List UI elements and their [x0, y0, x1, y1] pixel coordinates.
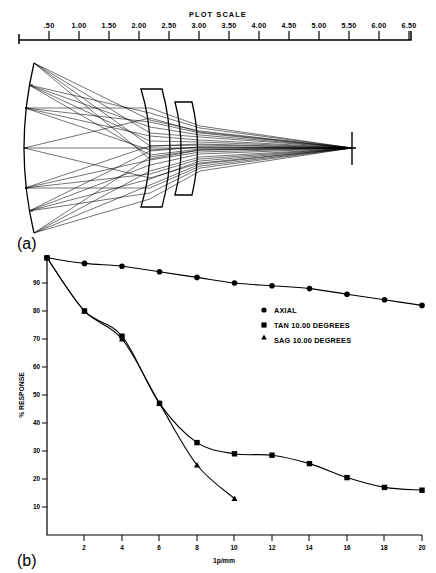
x-tick-label: 6 — [157, 544, 161, 551]
data-point-circle-icon — [344, 291, 350, 297]
data-point-circle-icon — [157, 269, 163, 275]
legend-marker-circle-icon — [261, 307, 266, 312]
scale-tick-label: .50 — [44, 21, 55, 30]
scale-tick-label: 1.00 — [71, 21, 86, 30]
legend-marker-square-icon — [261, 322, 266, 327]
image-plane — [345, 132, 356, 165]
data-point-square-icon — [194, 440, 199, 445]
y-tick-label: 60 — [33, 363, 41, 370]
scale-tick-label: 4.00 — [251, 21, 266, 30]
data-point-square-icon — [344, 475, 349, 480]
ruler-baseline — [19, 31, 411, 44]
y-tick-label: 10 — [33, 503, 41, 510]
x-tick-label: 14 — [305, 544, 313, 551]
x-tick-label: 4 — [120, 544, 124, 551]
data-point-circle-icon — [232, 280, 238, 286]
x-tick-label: 12 — [268, 544, 276, 551]
y-axis-ticks — [42, 283, 47, 507]
y-axis-tick-labels: 90 80 70 60 50 40 30 20 10 — [33, 279, 41, 510]
data-point-circle-icon — [82, 261, 88, 267]
mtf-chart: 90 80 70 60 50 40 30 20 10 % RESPONSE — [17, 255, 426, 569]
ruler-ticks — [49, 31, 409, 40]
data-point-circle-icon — [269, 283, 275, 289]
series-tan-10-00-degrees — [44, 255, 424, 493]
x-tick-label: 2 — [82, 544, 86, 551]
x-tick-label: 18 — [380, 544, 388, 551]
y-tick-label: 20 — [33, 475, 41, 482]
optical-figure: PLOT SCALE .50 — [0, 0, 436, 573]
y-tick-label: 50 — [33, 391, 41, 398]
x-tick-label: 10 — [230, 544, 238, 551]
scale-tick-label: 1.50 — [101, 21, 116, 30]
series-sag-10-00-degrees — [44, 255, 238, 501]
y-tick-label: 70 — [33, 335, 41, 342]
chart-legend: AXIAL TAN 10.00 DEGREES SAG 10.00 DEGREE… — [261, 306, 351, 345]
data-point-square-icon — [382, 485, 387, 490]
plot-scale-ruler: PLOT SCALE .50 — [19, 10, 417, 44]
ray-bundle — [24, 63, 352, 233]
scale-tick-label: 2.00 — [131, 21, 146, 30]
y-tick-label: 80 — [33, 307, 41, 314]
scale-tick-label: 3.50 — [221, 21, 236, 30]
series-axial — [44, 255, 425, 308]
scale-tick-label: 3.00 — [191, 21, 206, 30]
plot-scale-title: PLOT SCALE — [189, 10, 247, 19]
panel-b-label: (b) — [17, 552, 37, 569]
scale-tick-label: 6.00 — [371, 21, 386, 30]
figure-canvas: PLOT SCALE .50 — [0, 0, 436, 573]
data-point-square-icon — [269, 453, 274, 458]
data-point-square-icon — [307, 461, 312, 466]
y-axis-title: % RESPONSE — [18, 372, 25, 418]
x-axis-ticks — [84, 535, 422, 541]
x-tick-label: 20 — [418, 544, 426, 551]
y-tick-label: 30 — [33, 447, 41, 454]
ray-diagram: (a) — [17, 63, 356, 252]
data-point-circle-icon — [419, 303, 425, 309]
scale-tick-label: 4.50 — [281, 21, 296, 30]
data-point-circle-icon — [307, 286, 313, 292]
panel-a-label: (a) — [17, 235, 37, 252]
ruler-tick-labels: .50 1.00 1.50 2.00 2.50 3.00 3.50 4.00 4… — [44, 21, 417, 30]
scale-tick-label: 5.50 — [341, 21, 356, 30]
data-point-circle-icon — [194, 275, 200, 281]
y-tick-label: 90 — [33, 279, 41, 286]
scale-tick-label: 6.50 — [401, 21, 416, 30]
scale-tick-label: 5.00 — [311, 21, 326, 30]
legend-label-tan: TAN 10.00 DEGREES — [274, 321, 350, 330]
y-tick-label: 40 — [33, 419, 41, 426]
x-tick-label: 16 — [343, 544, 351, 551]
data-point-square-icon — [232, 451, 237, 456]
scale-tick-label: 2.50 — [161, 21, 176, 30]
data-point-circle-icon — [382, 297, 388, 303]
x-tick-label: 8 — [195, 544, 199, 551]
data-point-square-icon — [419, 488, 424, 493]
legend-label-axial: AXIAL — [274, 306, 297, 315]
x-axis-tick-labels: 2 4 6 8 10 12 14 16 18 20 — [82, 544, 426, 551]
series-line — [47, 258, 235, 499]
legend-marker-triangle-icon — [261, 334, 267, 339]
x-axis-title: 1p/mm — [213, 557, 235, 565]
data-point-circle-icon — [119, 263, 125, 269]
series-layer — [44, 255, 425, 501]
legend-label-sag: SAG 10.00 DEGREES — [274, 336, 351, 345]
